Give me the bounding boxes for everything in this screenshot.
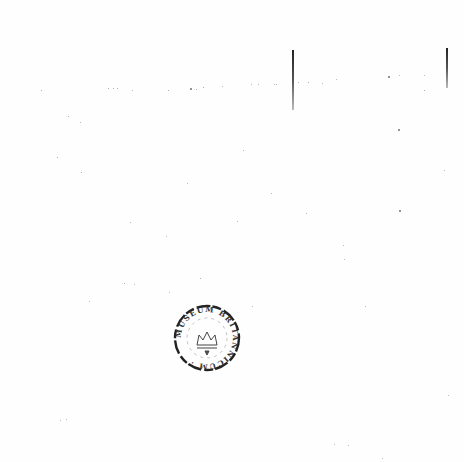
speck <box>81 172 82 173</box>
speck <box>243 150 244 151</box>
speck <box>274 84 275 85</box>
speck <box>424 90 425 91</box>
speck <box>237 221 238 222</box>
speck <box>60 420 61 421</box>
speck <box>258 84 259 85</box>
speck <box>169 292 170 293</box>
speck <box>276 84 277 85</box>
speck <box>108 88 109 89</box>
speck <box>306 213 307 214</box>
speck <box>132 90 133 91</box>
speck <box>365 306 366 307</box>
speck <box>336 79 337 80</box>
speck <box>444 170 445 171</box>
speck <box>399 210 401 212</box>
speck <box>322 83 323 84</box>
speck <box>398 129 400 131</box>
speck <box>203 87 204 88</box>
speck <box>344 259 345 260</box>
speck <box>343 245 344 246</box>
speck <box>57 157 58 158</box>
speck <box>196 89 197 90</box>
speck <box>251 84 252 85</box>
speck <box>252 306 253 307</box>
vertical-rule-line <box>292 50 294 110</box>
speck <box>298 82 299 83</box>
speck <box>113 88 114 89</box>
speck <box>168 90 169 91</box>
speck <box>117 88 118 89</box>
speck <box>424 75 425 76</box>
speck <box>200 278 201 279</box>
speck <box>388 76 390 78</box>
speck <box>134 284 135 285</box>
speck <box>66 419 67 420</box>
speck <box>399 75 400 76</box>
speck <box>80 122 81 123</box>
speck <box>382 458 383 459</box>
speck <box>334 444 335 445</box>
vertical-rule-line <box>446 48 448 88</box>
speck <box>68 116 69 117</box>
scanned-page: MUSEUM BRITANNICUM · MUSEUM BRITANNICUM <box>0 0 464 462</box>
speck <box>448 395 449 396</box>
stamp-seal-icon: MUSEUM BRITANNICUM · <box>172 303 242 373</box>
speck <box>166 236 167 237</box>
speck <box>222 86 223 87</box>
speck <box>308 82 309 83</box>
speck <box>271 193 272 194</box>
crown-icon <box>197 332 217 355</box>
speck <box>130 222 131 223</box>
speck <box>41 90 42 91</box>
speck <box>187 183 188 184</box>
library-stamp: MUSEUM BRITANNICUM · <box>172 303 242 373</box>
speck <box>124 283 125 284</box>
speck <box>89 301 90 302</box>
speck <box>348 445 349 446</box>
speck <box>190 88 192 90</box>
